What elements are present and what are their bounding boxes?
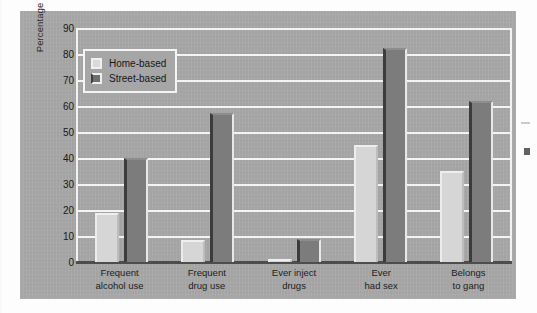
scanned-page: Percentage Reporting 90 80 70 60 50 40 3… — [0, 0, 537, 313]
legend-item-home-based: Home-based — [91, 56, 166, 71]
bar-home-based — [181, 240, 205, 262]
bar-home-based — [268, 259, 292, 262]
bar-group — [164, 30, 250, 262]
bar-street-based — [383, 48, 407, 263]
scan-artifact-mark — [521, 122, 530, 124]
y-axis-tick: 30 — [52, 179, 74, 190]
x-axis-tick-line: had sex — [338, 280, 425, 293]
bar-home-based — [354, 145, 378, 262]
chart-panel: Percentage Reporting 90 80 70 60 50 40 3… — [20, 11, 516, 299]
x-axis-tick-line: drug use — [163, 280, 250, 293]
chart-legend: Home-based Street-based — [83, 49, 177, 93]
x-axis-tick: Ever inject drugs — [250, 267, 337, 292]
y-axis-tick: 90 — [52, 23, 74, 34]
y-axis-tick: 40 — [52, 153, 74, 164]
legend-item-street-based: Street-based — [91, 71, 166, 86]
y-axis-tick: 50 — [52, 127, 74, 138]
x-axis-tick-line: Frequent — [163, 267, 250, 280]
y-axis-tick: 0 — [52, 257, 74, 268]
x-axis-tick-line: alcohol use — [76, 280, 163, 293]
y-axis-tick: 20 — [52, 205, 74, 216]
x-axis-tick: Frequent alcohol use — [76, 267, 163, 292]
y-axis-tick: 70 — [52, 75, 74, 86]
bar-home-based — [440, 171, 464, 262]
bar-street-based — [124, 158, 148, 262]
y-axis-tick: 80 — [52, 49, 74, 60]
legend-swatch-icon — [91, 73, 102, 84]
x-axis-tick-labels: Frequent alcohol use Frequent drug use E… — [76, 267, 512, 292]
legend-label: Street-based — [109, 73, 166, 84]
bar-street-based — [297, 239, 321, 262]
legend-swatch-icon — [91, 58, 102, 69]
x-axis-tick-line: Ever inject — [250, 267, 337, 280]
bar-street-based — [210, 113, 234, 263]
x-axis-tick: Belongs to gang — [425, 267, 512, 292]
x-axis-tick-line: to gang — [425, 280, 512, 293]
legend-label: Home-based — [109, 58, 166, 69]
x-axis-tick-line: Frequent — [76, 267, 163, 280]
y-axis-tick: 10 — [52, 231, 74, 242]
x-axis-tick-line: Ever — [338, 267, 425, 280]
bar-group — [424, 30, 510, 262]
bar-street-based — [469, 101, 493, 262]
y-axis-tick-labels: 90 80 70 60 50 40 30 20 10 0 — [42, 11, 74, 299]
x-axis-tick: Ever had sex — [338, 267, 425, 292]
scan-artifact-mark — [524, 148, 530, 155]
x-axis-tick-line: Belongs — [425, 267, 512, 280]
bar-home-based — [95, 213, 119, 262]
bar-group — [337, 30, 423, 262]
x-axis-tick-line: drugs — [250, 280, 337, 293]
x-axis-tick: Frequent drug use — [163, 267, 250, 292]
bar-group — [251, 30, 337, 262]
y-axis-tick: 60 — [52, 101, 74, 112]
